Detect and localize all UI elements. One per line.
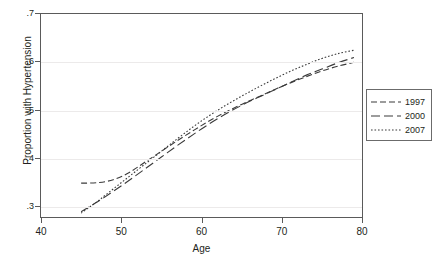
- y-axis-tick-label: .3: [20, 202, 34, 211]
- x-axis-tick-label: 70: [269, 226, 295, 237]
- series-line-2007: [81, 50, 354, 213]
- legend-key-icon: [371, 126, 401, 134]
- legend-label: 2007: [401, 125, 425, 135]
- legend-item-2000[interactable]: 2000: [371, 109, 427, 123]
- legend-item-2007[interactable]: 2007: [371, 123, 427, 137]
- gridline: [41, 111, 362, 112]
- x-axis-tick: [282, 218, 283, 223]
- x-axis-tick: [202, 218, 203, 223]
- x-axis-tick: [121, 218, 122, 223]
- legend-item-1997[interactable]: 1997: [371, 95, 427, 109]
- gridline: [41, 159, 362, 160]
- y-axis-tick: [35, 158, 40, 159]
- gridline: [41, 207, 362, 208]
- x-axis-tick-label: 60: [189, 226, 215, 237]
- series-line-1997: [81, 62, 354, 183]
- x-axis-tick-label: 80: [349, 226, 375, 237]
- series-layer: [41, 14, 362, 217]
- x-axis-tick: [362, 218, 363, 223]
- legend-key-icon: [371, 98, 401, 106]
- x-axis-tick-label: 50: [108, 226, 134, 237]
- legend-label: 1997: [401, 97, 425, 107]
- legend: 199720002007: [366, 89, 432, 141]
- x-axis-tick: [41, 218, 42, 223]
- legend-key-icon: [371, 112, 401, 120]
- gridline: [41, 62, 362, 63]
- series-line-2000: [81, 58, 354, 212]
- legend-label: 2000: [401, 111, 425, 121]
- y-axis-tick: [35, 110, 40, 111]
- y-axis-tick: [35, 206, 40, 207]
- y-axis-label: Proportion with Hypertension: [22, 11, 33, 191]
- plot-area: [40, 13, 363, 218]
- chart-figure: .3.4.5.6.7 Proportion with Hypertension …: [0, 0, 436, 262]
- x-axis-tick-label: 40: [28, 226, 54, 237]
- y-axis-tick: [35, 13, 40, 14]
- x-axis-label: Age: [40, 243, 363, 254]
- y-axis-tick: [35, 61, 40, 62]
